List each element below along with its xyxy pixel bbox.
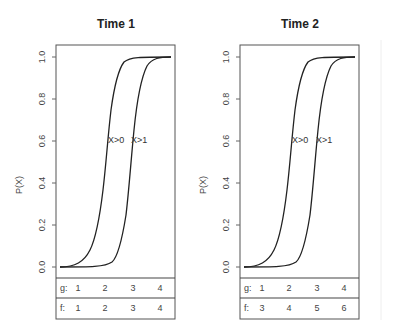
g-axis: g: 1 2 3 4 [244,283,347,293]
curve-label-x-gt-0: X>0 [292,135,308,145]
f-axis-label: f: [244,303,249,313]
curve-x-gt-1 [60,57,171,267]
f-tick-label: 4 [286,303,291,313]
f-axis: f: 3 4 5 6 [244,303,347,313]
y-tick-label: 0.4 [221,177,231,190]
curve-label-x-gt-1: X>1 [131,135,147,145]
panel-time-1: Time 1 P(X) 0.0 0.2 0.4 0.6 0.8 1.0 X>0 … [14,17,175,319]
y-tick-label: 1.0 [37,51,47,64]
f-tick-label: 6 [341,303,346,313]
panel-title: Time 2 [281,17,319,31]
panel-title: Time 1 [97,17,135,31]
y-tick-label: 0.6 [221,135,231,148]
curve-x-gt-1 [244,57,355,267]
g-axis-label: g: [244,283,252,293]
y-axis: 0.0 0.2 0.4 0.6 0.8 1.0 [37,51,56,274]
y-tick-label: 0.0 [221,261,231,274]
chart-canvas: Time 1 P(X) 0.0 0.2 0.4 0.6 0.8 1.0 X>0 … [0,0,393,336]
f-tick-label: 4 [157,303,162,313]
f-axis-label: f: [60,303,65,313]
f-axis: f: 1 2 3 4 [60,303,163,313]
g-axis: g: 1 2 3 4 [60,283,163,293]
g-tick-label: 3 [130,283,135,293]
f-tick-label: 5 [314,303,319,313]
f-tick-label: 3 [259,303,264,313]
curve-label-x-gt-0: X>0 [108,135,124,145]
y-axis: 0.0 0.2 0.4 0.6 0.8 1.0 [221,51,240,274]
curve-x-gt-0 [244,57,355,267]
g-tick-label: 4 [157,283,162,293]
curve-x-gt-0 [60,57,171,267]
g-tick-label: 1 [75,283,80,293]
y-tick-label: 0.6 [37,135,47,148]
f-tick-label: 1 [75,303,80,313]
f-tick-label: 2 [102,303,107,313]
f-tick-label: 3 [130,303,135,313]
g-axis-label: g: [60,283,68,293]
g-tick-label: 2 [102,283,107,293]
g-tick-label: 3 [314,283,319,293]
y-tick-label: 0.2 [221,219,231,232]
g-tick-label: 4 [341,283,346,293]
y-axis-label: P(X) [198,176,208,194]
y-tick-label: 1.0 [221,51,231,64]
y-tick-label: 0.4 [37,177,47,190]
panel-time-2: Time 2 P(X) 0.0 0.2 0.4 0.6 0.8 1.0 X>0 … [198,17,359,319]
g-tick-label: 1 [259,283,264,293]
y-tick-label: 0.2 [37,219,47,232]
y-axis-label: P(X) [14,176,24,194]
y-tick-label: 0.8 [37,93,47,106]
y-tick-label: 0.8 [221,93,231,106]
y-tick-label: 0.0 [37,261,47,274]
g-tick-label: 2 [286,283,291,293]
curve-label-x-gt-1: X>1 [316,135,332,145]
